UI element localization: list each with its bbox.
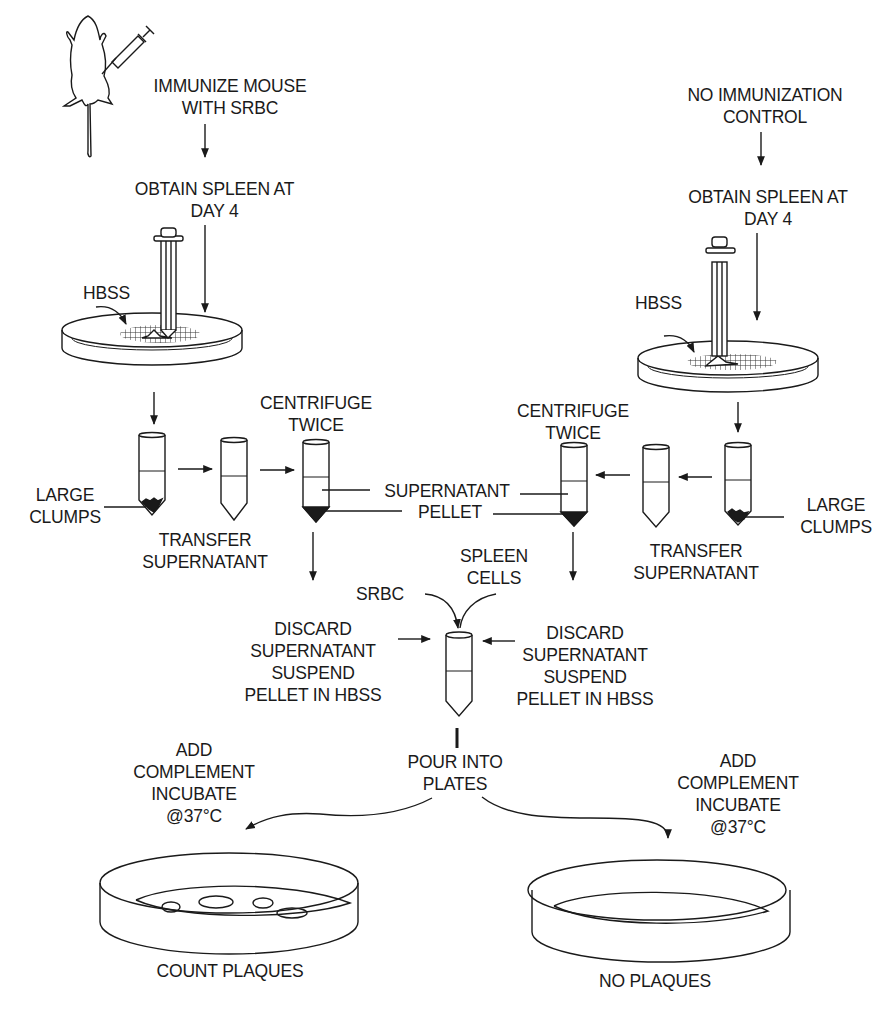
discard-label-left: DISCARD SUPERNATANT SUSPEND PELLET IN HB…	[238, 618, 388, 706]
srbc-label: SRBC	[356, 583, 404, 605]
pour-into-plates-label: POUR INTO PLATES	[380, 751, 530, 795]
hbss-label-left: HBSS	[83, 282, 130, 304]
immunize-mouse-label: IMMUNIZE MOUSE WITH SRBC	[125, 75, 335, 119]
pour-arrow-left	[246, 798, 432, 829]
tube-centrifuged-left	[303, 440, 329, 523]
transfer-supernatant-label-right: TRANSFER SUPERNATANT	[621, 540, 771, 584]
no-immunization-label: NO IMMUNIZATION CONTROL	[665, 84, 865, 128]
obtain-spleen-label-left: OBTAIN SPLEEN AT DAY 4	[112, 178, 317, 222]
petri-dish-with-syringe-right	[638, 237, 818, 392]
tube-transfer-left	[221, 438, 247, 521]
spleen-cells-label: SPLEEN CELLS	[444, 545, 544, 589]
tube-mixed-center	[446, 632, 472, 716]
supernatant-label: SUPERNATANT	[372, 480, 522, 502]
petri-plate-no-plaques	[528, 860, 790, 962]
centrifuge-label-left: CENTRIFUGE TWICE	[246, 392, 386, 436]
mouse-icon	[64, 16, 112, 157]
petri-plate-plaques	[100, 853, 358, 954]
tube-with-clumps-left	[139, 433, 165, 516]
discard-label-right: DISCARD SUPERNATANT SUSPEND PELLET IN HB…	[505, 622, 665, 710]
injection-syringe-icon	[102, 26, 154, 74]
obtain-spleen-label-right: OBTAIN SPLEEN AT DAY 4	[668, 186, 868, 230]
tube-transfer-right	[643, 445, 669, 528]
large-clumps-label-right: LARGE CLUMPS	[786, 494, 886, 538]
srbc-arrow	[425, 594, 458, 628]
incubate-label-left: ADD COMPLEMENT INCUBATE @37°C	[129, 739, 259, 827]
pour-arrow-right	[482, 797, 668, 838]
large-clumps-label-left: LARGE CLUMPS	[15, 484, 115, 528]
centrifuge-label-right: CENTRIFUGE TWICE	[503, 400, 643, 444]
spleen-cells-arrow	[460, 594, 496, 628]
count-plaques-label: COUNT PLAQUES	[140, 960, 320, 982]
pellet-label: PELLET	[405, 501, 495, 523]
hbss-label-right: HBSS	[635, 292, 682, 314]
tube-with-clumps-right	[725, 443, 751, 526]
no-plaques-label: NO PLAQUES	[580, 970, 730, 992]
incubate-label-right: ADD COMPLEMENT INCUBATE @37°C	[673, 750, 803, 838]
transfer-supernatant-label-left: TRANSFER SUPERNATANT	[130, 529, 280, 573]
